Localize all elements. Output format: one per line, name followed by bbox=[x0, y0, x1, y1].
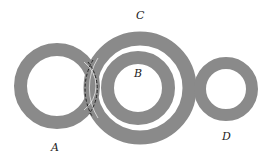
label-b: B bbox=[133, 67, 142, 80]
label-a: A bbox=[50, 141, 59, 154]
ring-d bbox=[200, 63, 252, 115]
label-c: C bbox=[136, 9, 145, 22]
rings-diagram: C B A D bbox=[0, 0, 271, 158]
label-d: D bbox=[221, 130, 231, 143]
ring-a bbox=[21, 50, 94, 123]
